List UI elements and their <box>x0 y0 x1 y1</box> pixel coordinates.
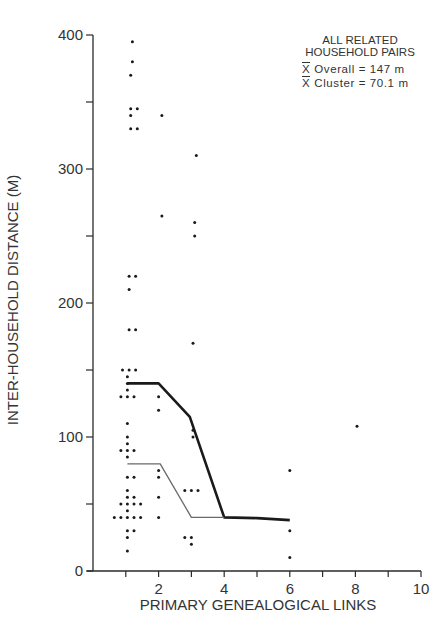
data-point <box>131 60 134 63</box>
data-point <box>128 288 131 291</box>
data-point <box>128 275 131 278</box>
legend-stat-label: Cluster <box>314 77 355 89</box>
data-point <box>288 529 291 532</box>
legend-stat-overall: XOverall = 147 m <box>302 63 409 77</box>
data-point <box>129 74 132 77</box>
legend-stats: XOverall = 147 m XCluster = 70.1 m <box>302 63 409 90</box>
data-point <box>134 328 137 331</box>
data-point <box>126 436 129 439</box>
data-point <box>119 516 122 519</box>
data-point <box>157 476 160 479</box>
axes <box>87 35 421 571</box>
data-point <box>126 536 129 539</box>
y-tick-label: 400 <box>58 26 83 43</box>
data-point <box>133 476 136 479</box>
legend-title-line-1: ALL RELATED <box>290 34 430 46</box>
data-point <box>126 503 129 506</box>
data-point <box>192 342 195 345</box>
legend-stat-value: 70.1 m <box>370 77 409 89</box>
data-point <box>160 114 163 117</box>
data-point <box>126 489 129 492</box>
x-tick-label: 6 <box>286 580 294 597</box>
data-point <box>126 456 129 459</box>
data-point <box>134 275 137 278</box>
data-point <box>126 422 129 425</box>
legend-stat-value: 147 m <box>370 63 405 75</box>
axis-ticks: 0100200300400246810 <box>58 26 429 597</box>
data-point <box>139 503 142 506</box>
data-point <box>190 536 193 539</box>
y-tick-label: 100 <box>58 428 83 445</box>
data-point <box>126 395 129 398</box>
data-point <box>131 40 134 43</box>
data-point <box>126 529 129 532</box>
data-point <box>190 489 193 492</box>
data-point <box>126 375 129 378</box>
data-point <box>126 449 129 452</box>
data-point <box>128 369 131 372</box>
y-tick-label: 0 <box>75 562 83 579</box>
data-point <box>288 469 291 472</box>
data-point <box>133 516 136 519</box>
data-point <box>157 516 160 519</box>
data-point <box>133 529 136 532</box>
data-point <box>134 369 137 372</box>
mean-symbol: X <box>302 77 310 91</box>
data-point <box>190 543 193 546</box>
data-point <box>157 496 160 499</box>
data-point <box>157 469 160 472</box>
data-point <box>136 107 139 110</box>
data-point <box>128 328 131 331</box>
mean-line <box>127 383 289 520</box>
x-tick-label: 4 <box>220 580 228 597</box>
data-point <box>126 516 129 519</box>
data-point <box>136 127 139 130</box>
data-point <box>126 382 129 385</box>
data-point <box>126 389 129 392</box>
data-point <box>157 409 160 412</box>
data-point <box>129 107 132 110</box>
legend-title-line-2: HOUSEHOLD PAIRS <box>290 46 430 58</box>
data-point <box>119 395 122 398</box>
legend-stat-label: Overall <box>314 63 355 75</box>
data-point <box>195 154 198 157</box>
data-point <box>197 489 200 492</box>
data-point <box>133 503 136 506</box>
data-point <box>157 395 160 398</box>
data-point <box>183 536 186 539</box>
data-point <box>129 114 132 117</box>
x-axis-title: PRIMARY GENEALOGICAL LINKS <box>140 596 376 613</box>
data-point <box>113 516 116 519</box>
data-point <box>121 369 124 372</box>
data-point <box>192 436 195 439</box>
scatter-chart: 0100200300400246810 <box>0 0 448 640</box>
data-point <box>160 214 163 217</box>
data-point <box>183 489 186 492</box>
data-point <box>193 221 196 224</box>
data-point <box>356 425 359 428</box>
data-point <box>119 449 122 452</box>
data-point <box>192 429 195 432</box>
y-tick-label: 200 <box>58 294 83 311</box>
data-point <box>133 449 136 452</box>
data-point <box>126 549 129 552</box>
data-point <box>139 516 142 519</box>
data-point <box>129 127 132 130</box>
data-point <box>126 509 129 512</box>
y-axis-title: INTER-HOUSEHOLD DISTANCE (M) <box>4 175 21 426</box>
data-point <box>126 476 129 479</box>
x-tick-label: 8 <box>351 580 359 597</box>
data-point <box>288 556 291 559</box>
data-point <box>126 442 129 445</box>
data-point <box>133 395 136 398</box>
data-point <box>133 496 136 499</box>
mean-lines <box>127 383 289 520</box>
mean-symbol: X <box>302 63 310 77</box>
data-point <box>126 496 129 499</box>
data-point <box>193 235 196 238</box>
y-tick-label: 300 <box>58 160 83 177</box>
x-tick-label: 10 <box>413 580 430 597</box>
data-points <box>113 40 359 559</box>
data-point <box>119 503 122 506</box>
x-tick-label: 2 <box>154 580 162 597</box>
